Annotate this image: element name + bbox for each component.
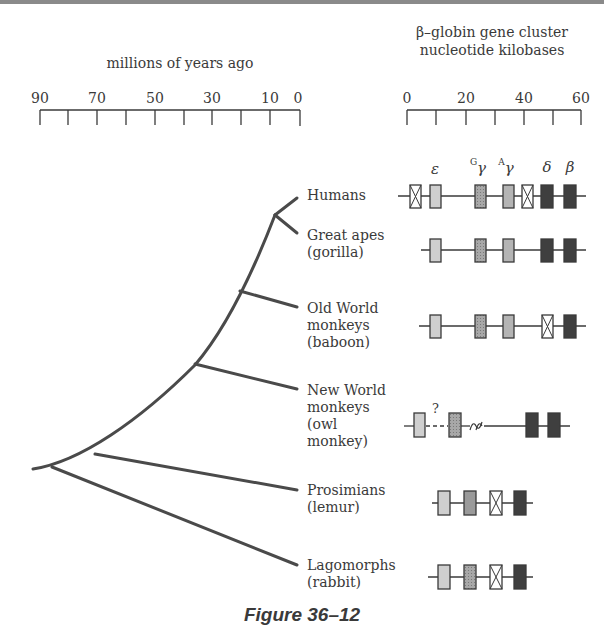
gene-label-delta: δ [542,158,551,176]
gene-row-lagomorphs [428,565,533,589]
pseudogene-box [542,315,553,338]
gene-row-great-apes [421,239,586,262]
figure-caption: Figure 36–12 [0,604,604,626]
gene-row-humans [398,185,586,208]
gamma-symbol: γ [505,159,514,177]
pseudogene-box [410,185,421,208]
kb-axis [407,110,581,125]
gene-label-g-gamma: Gγ [470,157,486,177]
gene-row-prosimians [432,491,533,515]
gene-row-old-world-monkeys [419,315,586,338]
phylogenetic-tree [33,198,297,565]
time-axis [40,110,300,126]
gene-row-new-world-monkeys [404,413,570,437]
gene-label-epsilon: ε [431,160,439,178]
uncertain-marker: ? [432,400,439,417]
pseudogene-box [522,185,533,208]
gamma-symbol: γ [477,159,486,177]
gene-label-a-gamma: Aγ [498,157,513,177]
pseudogene-box [490,565,502,589]
gene-label-beta: β [566,158,575,176]
diagram-canvas [0,0,604,640]
pseudogene-box [490,491,502,515]
